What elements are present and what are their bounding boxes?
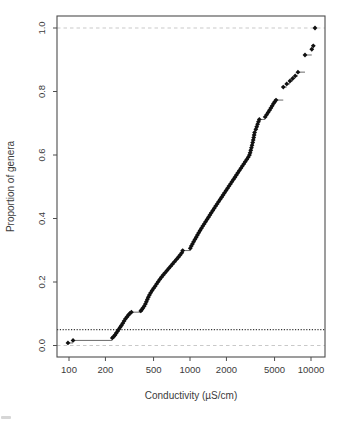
data-point-marker [284,81,289,86]
data-point-marker [313,26,318,31]
cropped-text-fragment [1,416,11,419]
y-tick-label: 0.2 [36,275,47,288]
y-axis-label: Proportion of genera [5,140,16,232]
ecdf-plot: 100200500100020005000100000.00.20.40.60.… [0,0,344,421]
x-tick-label: 2000 [216,364,237,375]
data-point-marker [66,341,71,346]
y-tick-label: 0.6 [36,148,47,161]
y-tick-label: 0.0 [36,339,47,352]
x-tick-label: 200 [97,364,113,375]
data-point-marker [303,53,308,58]
data-point-marker [71,338,76,343]
data-point-marker [296,70,301,75]
y-tick-label: 0.8 [36,85,47,98]
x-axis-label: Conductivity (µS/cm) [145,390,237,401]
y-tick-label: 0.4 [36,212,47,225]
y-tick-label: 1.0 [36,21,47,34]
x-tick-label: 1000 [179,364,200,375]
plot-box [57,16,325,357]
x-tick-label: 500 [146,364,162,375]
data-point-marker [281,85,286,90]
x-tick-label: 10000 [298,364,324,375]
x-tick-label: 100 [61,364,77,375]
x-tick-label: 5000 [264,364,285,375]
plot-window: 100200500100020005000100000.00.20.40.60.… [0,0,344,421]
